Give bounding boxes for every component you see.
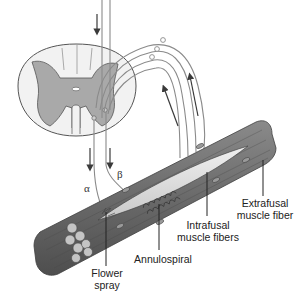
muscle-spindle-diagram: α β Flower spray Annulospiral Intrafusal… (0, 0, 301, 294)
flower-spray-label: Flower spray (87, 267, 127, 291)
alpha-label: α (84, 182, 90, 194)
beta-label: β (117, 168, 123, 180)
alpha-motor-neuron (92, 116, 96, 120)
diagram-artwork (0, 0, 301, 294)
extrafusal-fiber-label: Extrafusal muscle fiber (234, 197, 296, 221)
dorsal-root-ganglion-cells (150, 38, 166, 60)
annulospiral-label: Annulospiral (128, 253, 198, 265)
intrafusal-fibers-label: Intrafusal muscle fibers (176, 219, 240, 243)
afferent-up-arrow-left-icon (164, 88, 178, 126)
